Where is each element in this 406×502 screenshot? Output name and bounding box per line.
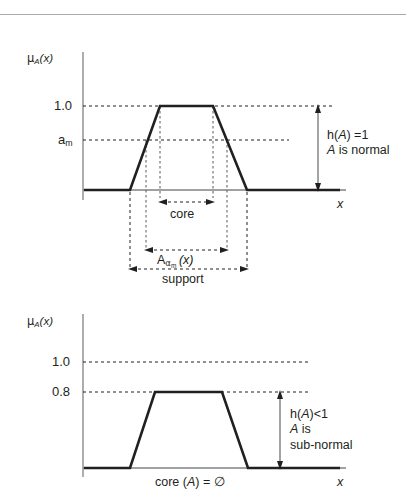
bottom-ytick-08: 0.8 xyxy=(52,385,70,398)
top-ytick-am-sub: m xyxy=(65,138,72,148)
bottom-height-arrow-head-up xyxy=(277,390,283,399)
top-x-axis-label-text: x xyxy=(337,197,343,211)
top-height-annotation-line1-suffix: ) =1 xyxy=(346,128,368,142)
top-ytick-am: am xyxy=(58,133,73,148)
top-alphacut-arrow-right xyxy=(220,247,229,253)
bottom-ytick-1-label: 1.0 xyxy=(52,354,70,369)
top-y-axis-label: μA(x) xyxy=(27,53,53,66)
top-core-label: core xyxy=(170,208,194,221)
top-height-annotation-line1: h(A) =1 xyxy=(327,128,390,143)
top-height-annotation: h(A) =1 A is normal xyxy=(327,128,390,159)
bottom-height-annotation: h(A)<1 A is sub-normal xyxy=(290,407,353,453)
top-support-label-text: support xyxy=(162,272,204,286)
bottom-height-annotation-line1: h(A)<1 xyxy=(290,407,353,422)
figure-page: μA(x) 1.0 am x h(A) =1 A is normal core … xyxy=(0,0,406,502)
top-height-annotation-line2: A is normal xyxy=(327,143,390,158)
top-alphacut-arrow-left xyxy=(144,247,153,253)
top-support-arrow-left xyxy=(128,266,137,272)
top-alphacut-label: Aαm (x) xyxy=(157,254,193,269)
bottom-height-annotation-line3: sub-normal xyxy=(290,438,353,453)
top-support-arrow-right xyxy=(240,266,249,272)
bottom-x-axis-label-text: x xyxy=(337,475,343,489)
bottom-core-caption: core (A) = ∅ xyxy=(155,476,225,489)
bottom-height-annotation-line3-text: sub-normal xyxy=(290,438,353,452)
bottom-ytick-1: 1.0 xyxy=(52,355,70,368)
top-height-arrow-head-up xyxy=(315,104,321,113)
bottom-height-annotation-line1-suffix: )<1 xyxy=(309,407,327,421)
bottom-height-annotation-line2-suffix: is xyxy=(298,422,311,436)
top-height-annotation-line2-suffix: is normal xyxy=(335,143,389,157)
chart-subnormal-fuzzy-set: μA(x) 1.0 0.8 x h(A)<1 A is sub-normal c… xyxy=(0,292,406,502)
top-support-label: support xyxy=(162,273,204,286)
bottom-y-axis-label: μA(x) xyxy=(27,316,53,329)
top-core-arrow-left xyxy=(158,199,167,205)
top-ytick-1: 1.0 xyxy=(54,99,72,112)
bottom-x-axis-label: x xyxy=(337,476,343,489)
top-alphacut-label-arg: (x) xyxy=(179,253,194,267)
top-core-label-text: core xyxy=(170,207,194,221)
bottom-ytick-08-label: 0.8 xyxy=(52,384,70,399)
bottom-height-annotation-line1-prefix: h( xyxy=(290,407,301,421)
chart-normal-fuzzy-set: μA(x) 1.0 am x h(A) =1 A is normal core … xyxy=(0,22,406,274)
top-ytick-1-label: 1.0 xyxy=(54,98,72,113)
top-membership-curve xyxy=(84,106,340,190)
bottom-height-annotation-line2: A is xyxy=(290,422,353,437)
top-x-axis-label: x xyxy=(337,198,343,211)
bottom-y-axis-label-arg: (x) xyxy=(40,315,53,327)
page-header-rule xyxy=(0,14,406,15)
top-core-arrow-right xyxy=(206,199,215,205)
bottom-core-caption-prefix: core ( xyxy=(155,475,187,489)
top-y-axis-label-arg: (x) xyxy=(40,52,53,64)
top-height-annotation-line1-prefix: h( xyxy=(327,128,338,142)
bottom-core-caption-suffix: ) = ∅ xyxy=(195,475,224,489)
